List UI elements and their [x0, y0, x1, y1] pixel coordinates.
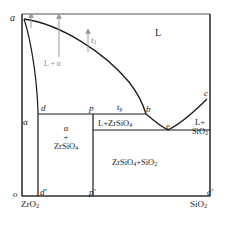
- axis-label-sio2: SiO2: [190, 200, 207, 210]
- phase-diagram-figure: a d p b e c o d′ p′ c′ ZrO2 SiO2 L L + α…: [0, 0, 229, 230]
- annotation-label-t1: t1: [91, 36, 96, 46]
- point-label-c-prime: c′: [207, 188, 213, 197]
- axis-label-zro2-subscript: 2: [36, 202, 39, 209]
- liquidus-curve-b-e: [146, 114, 168, 130]
- annotation-label-tp-subscript: p: [119, 106, 122, 112]
- region-label-zircon-silica-p1: ZrSiO: [112, 157, 133, 167]
- region-label-liquid-alpha: L + α: [44, 60, 61, 68]
- liquidus-curve-a-b: [24, 19, 146, 114]
- point-label-o: o: [13, 190, 18, 199]
- point-label-c: c: [204, 89, 208, 98]
- point-label-b: b: [146, 105, 151, 114]
- region-label-zircon-silica-sub2: 2: [154, 161, 157, 167]
- region-label-liquid-silica-subscript: 2: [205, 130, 208, 136]
- arrow-marker-1: [57, 14, 61, 57]
- axis-label-zro2: ZrO2: [21, 200, 39, 210]
- region-label-alpha-zircon-formula: ZrSiO: [54, 141, 75, 151]
- region-label-liquid-zircon-subscript: 4: [129, 122, 132, 128]
- axis-label-sio2-text: SiO: [190, 199, 204, 209]
- region-label-alpha-zircon-line3: ZrSiO4: [42, 142, 90, 152]
- point-label-e: e: [166, 122, 170, 131]
- point-label-d: d: [41, 104, 46, 113]
- temperature-arrows-group: [29, 13, 90, 57]
- region-label-liquid-zircon: L+ZrSiO4: [98, 119, 132, 129]
- arrow-marker-t1: [86, 29, 90, 52]
- annotation-label-tp: tp: [117, 103, 122, 113]
- region-label-liquid-silica-formula: SiO: [192, 126, 205, 136]
- annotation-label-t1-subscript: 1: [93, 39, 96, 45]
- region-label-liquid: L: [155, 28, 161, 39]
- region-label-alpha: α: [23, 118, 28, 127]
- phase-diagram-canvas: [0, 0, 229, 230]
- point-label-p-prime: p′: [89, 188, 95, 197]
- point-label-d-prime: d′: [40, 188, 46, 197]
- region-label-alpha-zircon-subscript: 4: [75, 145, 78, 151]
- point-label-a: a: [10, 13, 15, 24]
- point-label-p: p: [89, 104, 94, 113]
- axis-label-sio2-subscript: 2: [204, 202, 207, 209]
- region-label-liquid-silica: L+ SiO2: [183, 118, 217, 136]
- alpha-solvus-curve: [24, 19, 38, 196]
- region-label-zircon-silica: ZrSiO4+SiO2: [112, 158, 157, 168]
- region-label-zircon-silica-p2: +SiO: [136, 157, 154, 167]
- region-label-alpha-zircon: α + ZrSiO4: [42, 124, 90, 151]
- region-label-liquid-zircon-text: L+ZrSiO: [98, 118, 129, 128]
- region-label-liquid-silica-line2: SiO2: [183, 127, 217, 137]
- diagram-frame: [22, 14, 210, 196]
- axis-label-zro2-text: ZrO: [21, 199, 36, 209]
